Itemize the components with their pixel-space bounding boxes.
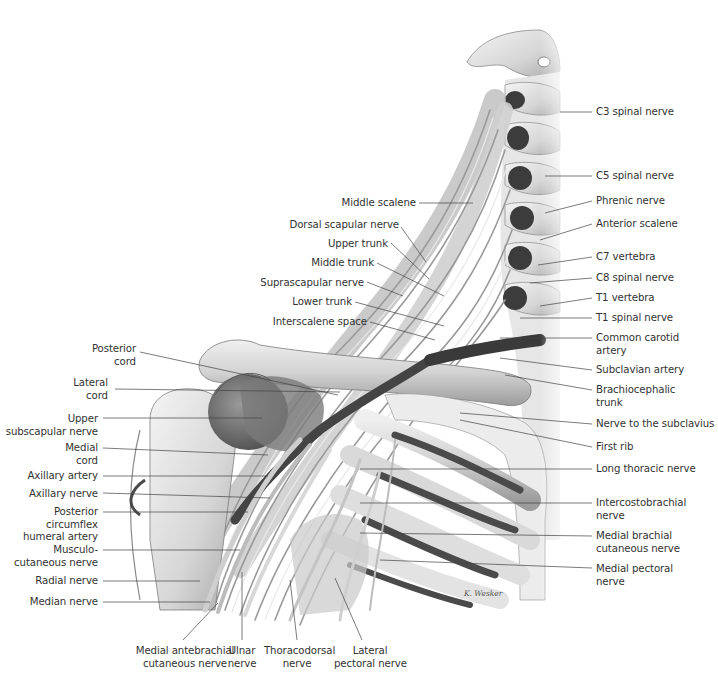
label-medial-cord: Medial cord [65,442,98,467]
label-middle-trunk: Middle trunk [311,257,374,270]
label-radial-nerve: Radial nerve [35,575,98,588]
label-c5-spinal-nerve: C5 spinal nerve [596,170,674,183]
anatomy-figure: K. Wesker [0,0,718,689]
label-long-thoracic-nerve: Long thoracic nerve [596,463,696,476]
label-subclavian-artery: Subclavian artery [596,364,684,377]
label-dorsal-scapular-nerve: Dorsal scapular nerve [289,219,399,232]
label-lateral-pectoral-nerve: Lateral pectoral nerve [334,645,406,670]
label-c3-spinal-nerve: C3 spinal nerve [596,106,674,119]
label-posterior-cord: Posterior cord [92,343,136,368]
label-axillary-nerve: Axillary nerve [29,488,98,501]
label-interscalene-space: Interscalene space [273,316,367,329]
label-medial-pectoral-nerve: Medial pectoral nerve [596,563,673,588]
label-medial-brachial-cutaneous-nerve: Medial brachial cutaneous nerve [596,530,680,555]
label-lower-trunk: Lower trunk [292,296,352,309]
label-thoracodorsal-nerve: Thoracodorsal nerve [264,645,330,670]
label-nerve-to-subclavius: Nerve to the subclavius [596,418,714,431]
label-c7-vertebra: C7 vertebra [596,251,655,264]
label-c8-spinal-nerve: C8 spinal nerve [596,272,674,285]
label-upper-subscapular-nerve: Upper subscapular nerve [6,413,98,438]
label-axillary-artery: Axillary artery [27,470,98,483]
label-phrenic-nerve: Phrenic nerve [596,195,665,208]
label-ulnar-nerve: Ulnar nerve [222,645,262,670]
label-middle-scalene: Middle scalene [342,197,416,210]
label-common-carotid-artery: Common carotid artery [596,332,679,357]
label-anterior-scalene: Anterior scalene [596,218,678,231]
label-median-nerve: Median nerve [30,596,98,609]
artist-signature: K. Wesker [463,589,503,598]
label-musculocutaneous-nerve: Musculo- cutaneous nerve [14,544,98,569]
label-posterior-circumflex-humeral-artery: Posterior circumflex humeral artery [23,506,98,544]
label-lateral-cord: Lateral cord [73,377,108,402]
label-suprascapular-nerve: Suprascapular nerve [260,277,364,290]
label-upper-trunk: Upper trunk [328,238,388,251]
label-first-rib: First rib [596,441,633,454]
label-t1-vertebra: T1 vertebra [596,292,655,305]
label-intercostobrachial-nerve: Intercostobrachial nerve [596,497,686,522]
label-t1-spinal-nerve: T1 spinal nerve [596,312,673,325]
label-brachiocephalic-trunk: Brachiocephalic trunk [596,384,675,409]
